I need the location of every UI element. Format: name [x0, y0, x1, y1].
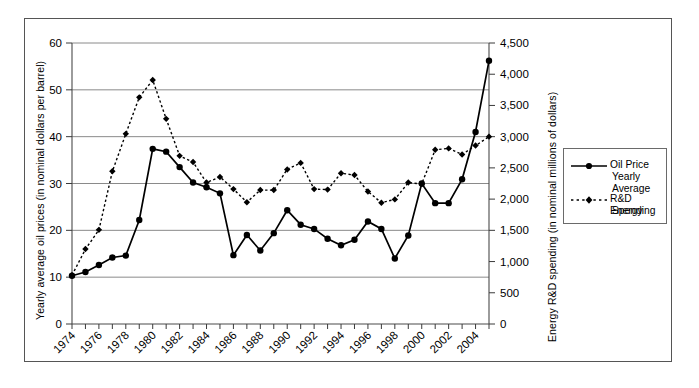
y-tick-label: 60	[49, 37, 62, 49]
y2-tick-label: 500	[500, 287, 519, 299]
data-point	[136, 94, 142, 100]
legend-item-rd-spending-line2: Spending	[610, 205, 656, 217]
x-tick-label: 1976	[78, 329, 105, 356]
chart-figure: 0102030405060 05001,0001,5002,0002,5003,…	[0, 0, 699, 388]
data-point	[459, 151, 465, 157]
x-tick-label: 1988	[239, 329, 266, 356]
data-point	[432, 200, 438, 206]
data-point	[69, 273, 75, 279]
gridlines-group	[72, 43, 489, 277]
data-point	[445, 145, 451, 151]
x-tick-label: 1974	[51, 329, 78, 356]
y2-tick-label: 4,500	[500, 37, 529, 49]
y-tick-label: 50	[49, 84, 62, 96]
data-point	[109, 168, 115, 174]
data-point	[338, 242, 344, 248]
data-point	[365, 218, 371, 224]
y2-axis-title: Energy R&D spending (in nominal millions…	[546, 92, 558, 342]
data-point	[203, 184, 209, 190]
data-point	[163, 148, 169, 154]
legend-swatch-rd-spending-line	[570, 193, 608, 207]
data-point	[96, 262, 102, 268]
data-point	[351, 172, 357, 178]
data-point	[445, 200, 451, 206]
x-tick-label: 1990	[266, 329, 293, 356]
x-tick-label: 2000	[401, 329, 428, 356]
data-point	[324, 236, 330, 242]
data-point	[324, 186, 330, 192]
y-axis-tick-labels-group: 0102030405060	[49, 37, 62, 330]
y2-tick-label: 1,000	[500, 256, 529, 268]
data-point	[230, 186, 236, 192]
data-point	[338, 170, 344, 176]
y2-tick-label: 2,000	[500, 193, 529, 205]
data-point	[244, 199, 250, 205]
data-point	[392, 255, 398, 261]
data-point	[163, 116, 169, 122]
data-point	[123, 252, 129, 258]
legend-swatch-oil-price-line	[570, 159, 608, 173]
data-point	[176, 164, 182, 170]
data-point	[486, 58, 492, 64]
y2-tick-label: 2,500	[500, 162, 529, 174]
x-tick-label: 1992	[293, 329, 320, 356]
data-point	[392, 196, 398, 202]
x-tick-label: 2004	[454, 329, 481, 356]
legend-label-rd-spending-2: Spending	[612, 205, 656, 217]
data-point	[136, 217, 142, 223]
y2-axis-ticks-group	[489, 43, 495, 324]
data-point	[378, 200, 384, 206]
legend-item-oil-price-line2: Yearly Average	[610, 171, 666, 194]
legend-label-oil-price: Oil Price	[610, 159, 649, 171]
data-point	[82, 246, 88, 252]
data-point	[123, 131, 129, 137]
x-tick-label: 1986	[212, 329, 239, 356]
x-axis-tick-labels-group: 1974197619781980198219841986198819901992…	[51, 329, 482, 356]
data-point	[284, 207, 290, 213]
data-point	[82, 269, 88, 275]
x-tick-label: 1996	[347, 329, 374, 356]
data-point	[190, 179, 196, 185]
data-point	[109, 254, 115, 260]
data-point	[432, 147, 438, 153]
y-tick-label: 20	[49, 224, 62, 236]
y-axis-title: Yearly average oil prices (in nominal do…	[34, 61, 46, 320]
data-point	[150, 77, 156, 83]
data-point	[150, 146, 156, 152]
series-rd-energy-spending	[69, 77, 492, 279]
y2-tick-label: 1,500	[500, 224, 529, 236]
data-point	[257, 247, 263, 253]
data-point	[378, 226, 384, 232]
x-tick-label: 1978	[105, 329, 132, 356]
y2-tick-label: 3,000	[500, 131, 529, 143]
data-point	[419, 180, 425, 186]
series-oil-price	[69, 58, 492, 279]
data-point	[311, 226, 317, 232]
x-axis-ticks-group	[72, 324, 489, 329]
data-point	[271, 230, 277, 236]
data-point	[472, 129, 478, 135]
data-point	[217, 190, 223, 196]
x-tick-label: 1994	[320, 329, 347, 356]
legend-label-oil-price-2: Yearly Average	[612, 171, 666, 194]
data-point	[351, 237, 357, 243]
x-tick-label: 1980	[132, 329, 159, 356]
x-tick-label: 1984	[185, 329, 212, 356]
data-point	[297, 160, 303, 166]
y-tick-label: 0	[56, 318, 62, 330]
data-point	[244, 232, 250, 238]
data-point	[459, 176, 465, 182]
y2-tick-label: 0	[500, 318, 506, 330]
data-point	[176, 153, 182, 159]
y-tick-label: 10	[49, 271, 62, 283]
y-tick-label: 40	[49, 131, 62, 143]
data-point	[230, 252, 236, 258]
x-tick-label: 2002	[427, 329, 454, 356]
y2-tick-label: 4,000	[500, 68, 529, 80]
x-tick-label: 1982	[158, 329, 185, 356]
y2-axis-tick-labels-group: 05001,0001,5002,0002,5003,0003,5004,0004…	[500, 37, 529, 330]
x-tick-label: 1998	[374, 329, 401, 356]
data-point	[405, 232, 411, 238]
y2-tick-label: 3,500	[500, 99, 529, 111]
series-oil-group-line	[72, 61, 489, 276]
